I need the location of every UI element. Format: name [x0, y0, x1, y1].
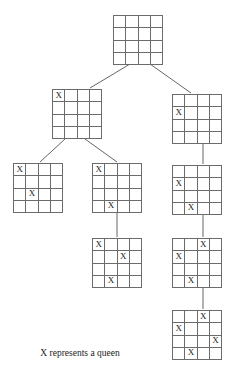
queen-marker: X — [93, 239, 104, 250]
board-cell — [130, 251, 142, 263]
board-cell — [173, 276, 185, 288]
board-cell — [118, 189, 130, 201]
chessboard-node — [113, 15, 163, 65]
board-cell — [93, 201, 105, 213]
board-cell — [198, 251, 210, 263]
queen-marker: X — [185, 276, 196, 287]
board-cell — [210, 323, 222, 335]
chessboard-node: X — [52, 89, 102, 139]
board-cell — [65, 127, 77, 139]
board-cell — [51, 176, 63, 188]
board-cell — [173, 239, 185, 251]
queen-marker: X — [53, 90, 64, 101]
tree-edge — [40, 139, 65, 162]
board-cell: X — [93, 239, 105, 251]
board-cell: X — [26, 189, 38, 201]
board-cell — [39, 201, 51, 213]
board-cell — [78, 115, 90, 127]
board-cell — [39, 189, 51, 201]
board-cell: X — [105, 276, 117, 288]
board-cell — [210, 239, 222, 251]
board-cell — [118, 201, 130, 213]
queen-marker: X — [173, 251, 184, 262]
board-cell — [93, 189, 105, 201]
chessboard-node: XXX — [172, 238, 222, 288]
board-cell — [210, 191, 222, 203]
board-cell — [105, 239, 117, 251]
board-cell — [118, 164, 130, 176]
board-cell — [130, 239, 142, 251]
board-cell — [90, 115, 102, 127]
chessboard-node: XXXX — [172, 310, 222, 360]
board-cell — [210, 311, 222, 323]
board-cell — [198, 166, 210, 178]
board-cell — [105, 189, 117, 201]
board-cell — [26, 176, 38, 188]
board-cell — [210, 348, 222, 360]
board-cell — [126, 16, 138, 28]
board-cell — [198, 348, 210, 360]
board-cell: X — [14, 164, 26, 176]
board-cell — [198, 276, 210, 288]
board-cell — [90, 127, 102, 139]
board-cell — [105, 176, 117, 188]
board-cell — [51, 201, 63, 213]
board-cell — [26, 164, 38, 176]
board-cell — [78, 102, 90, 114]
board-cell — [173, 191, 185, 203]
queen-marker: X — [173, 178, 184, 189]
board-cell — [139, 41, 151, 53]
board-cell: X — [53, 90, 65, 102]
queen-marker: X — [14, 164, 25, 175]
board-cell — [198, 264, 210, 276]
board-cell — [151, 41, 163, 53]
board-cell: X — [185, 348, 197, 360]
board-cell — [114, 53, 126, 65]
chessboard-node: XX — [13, 163, 63, 213]
board-cell — [14, 176, 26, 188]
board-cell — [185, 95, 197, 107]
board-cell — [130, 264, 142, 276]
board-cell: X — [173, 107, 185, 119]
board-cell — [173, 311, 185, 323]
board-cell — [210, 166, 222, 178]
board-cell — [93, 176, 105, 188]
board-cell — [210, 120, 222, 132]
board-cell — [90, 102, 102, 114]
board-cell — [185, 191, 197, 203]
board-cell: X — [173, 323, 185, 335]
board-cell — [114, 16, 126, 28]
board-cell — [26, 201, 38, 213]
board-cell — [65, 115, 77, 127]
board-cell: X — [198, 239, 210, 251]
board-cell — [65, 90, 77, 102]
board-cell — [126, 41, 138, 53]
board-cell — [130, 176, 142, 188]
board-cell — [185, 239, 197, 251]
board-cell — [78, 127, 90, 139]
board-cell — [105, 164, 117, 176]
board-cell — [105, 251, 117, 263]
queen-marker: X — [198, 311, 209, 322]
board-cell — [198, 323, 210, 335]
board-cell — [173, 95, 185, 107]
board-cell — [173, 166, 185, 178]
board-cell — [130, 189, 142, 201]
queen-marker: X — [198, 239, 209, 250]
board-cell — [151, 28, 163, 40]
board-cell — [118, 276, 130, 288]
board-cell — [210, 132, 222, 144]
board-cell — [185, 166, 197, 178]
board-cell — [173, 336, 185, 348]
board-cell — [210, 264, 222, 276]
board-cell — [139, 16, 151, 28]
queen-marker: X — [185, 348, 196, 359]
queen-marker: X — [185, 203, 196, 214]
board-cell — [185, 132, 197, 144]
figure-caption: X represents a queen — [0, 348, 160, 358]
board-cell: X — [210, 336, 222, 348]
board-cell — [173, 348, 185, 360]
board-cell — [53, 102, 65, 114]
queen-marker: X — [105, 276, 116, 287]
tree-edge — [150, 64, 191, 93]
